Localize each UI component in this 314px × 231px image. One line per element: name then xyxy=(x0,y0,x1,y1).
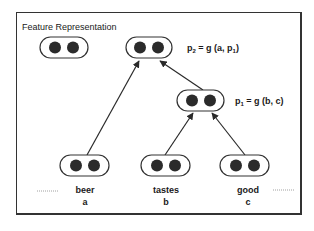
node-unit-dot xyxy=(230,160,242,172)
node-unit-dot xyxy=(204,95,216,107)
node-p2 xyxy=(126,37,172,58)
edge-b-to-p1 xyxy=(165,113,193,155)
equation-p2: p2 = g (a, p1) xyxy=(187,43,239,54)
node-a xyxy=(60,155,109,176)
diagram-canvas: Feature Representation p2 = g xyxy=(0,0,314,231)
node-unit-dot xyxy=(88,160,100,172)
edge-c-to-p1 xyxy=(212,113,245,155)
equation-p1: p1 = g (b, c) xyxy=(235,96,284,107)
node-unit-dot xyxy=(49,42,61,54)
var-c: c xyxy=(245,197,250,207)
edge-a-to-p2 xyxy=(87,61,139,155)
node-unattached xyxy=(40,37,88,58)
word-tastes: tastes xyxy=(153,185,179,195)
node-unit-dot xyxy=(67,42,79,54)
node-unit-dot xyxy=(169,160,181,172)
node-unit-dot xyxy=(134,42,146,54)
var-b: b xyxy=(163,197,169,207)
var-a: a xyxy=(82,197,88,207)
node-unit-dot xyxy=(70,160,82,172)
node-p1 xyxy=(177,90,224,111)
node-b xyxy=(141,155,190,176)
diagram-title: Feature Representation xyxy=(22,22,117,32)
word-good: good xyxy=(237,185,259,195)
edge-p1-to-p2 xyxy=(160,61,203,90)
node-unit-dot xyxy=(152,42,164,54)
node-unit-dot xyxy=(248,160,260,172)
node-unit-dot xyxy=(186,95,198,107)
node-unit-dot xyxy=(151,160,163,172)
word-beer: beer xyxy=(75,185,95,195)
node-c xyxy=(220,155,269,176)
